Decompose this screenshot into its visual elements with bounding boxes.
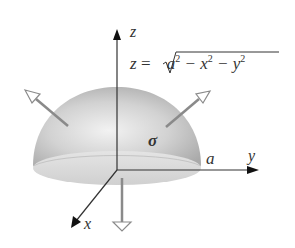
radius-a-label: a: [206, 150, 215, 167]
equation-a: a: [167, 54, 176, 73]
bottom-normal-arrow-icon: [113, 178, 131, 231]
equation-minus-y: − y: [213, 54, 241, 73]
z-axis-arrowhead-icon: [113, 29, 121, 40]
x-axis-label: x: [84, 216, 91, 232]
x-axis-arrowhead-icon: [71, 216, 81, 228]
equation-equals: =: [141, 54, 151, 73]
surface-equation: z = a2 − x2 − y2: [130, 54, 245, 72]
z-axis-label: z: [130, 24, 136, 40]
surface-sigma-label: σ: [148, 132, 157, 149]
y-axis-arrowhead-icon: [247, 166, 259, 174]
equation-exp-3: 2: [240, 53, 245, 64]
hemisphere-diagram: z y x σ a z = a2 − x2 − y2: [0, 0, 295, 248]
y-axis-label: y: [248, 148, 255, 164]
equation-minus-x: − x: [180, 54, 208, 73]
equation-lhs: z: [130, 54, 137, 73]
